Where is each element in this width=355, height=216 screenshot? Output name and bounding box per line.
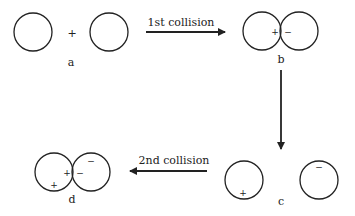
first-collision-arrow: 1st collision [146, 16, 225, 32]
sphere-a-right [90, 13, 128, 51]
second-collision-label: 2nd collision [139, 154, 210, 167]
charge-minus: − [87, 156, 95, 166]
charge-minus: − [76, 168, 84, 178]
panel-c: + − c [225, 161, 338, 208]
charge-minus: − [315, 162, 323, 172]
charge-minus: − [284, 27, 292, 37]
label-a: a [68, 56, 75, 69]
charge-plus: + [50, 180, 58, 190]
plus-sign: + [67, 27, 76, 40]
panel-b: + − b [243, 12, 318, 66]
panel-d: + + − − d [35, 153, 110, 206]
label-b: b [277, 53, 284, 66]
panel-a: + a [14, 13, 128, 69]
charge-plus: + [271, 27, 279, 37]
collision-diagram: + a 1st collision + − b + − c 2nd collis… [0, 0, 355, 216]
charge-plus: + [63, 168, 71, 178]
sphere-a-left [14, 13, 52, 51]
label-c: c [278, 195, 284, 208]
second-collision-arrow: 2nd collision [130, 154, 209, 171]
first-collision-label: 1st collision [148, 16, 215, 29]
charge-plus: + [239, 188, 247, 198]
label-d: d [68, 193, 75, 206]
